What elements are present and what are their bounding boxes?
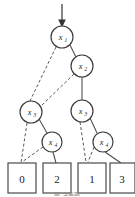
node-x3-left[interactable]: x 3 (20, 101, 42, 123)
node-x3-right-var: x (78, 107, 83, 116)
node-x4-right-subscript: 4 (106, 142, 109, 148)
root-entry-arrow (58, 4, 66, 28)
edge-x3left-to-terminal0-low (21, 123, 27, 163)
edge-x1-to-x3left-low (30, 47, 56, 101)
terminal-node-3[interactable]: 3 (110, 163, 135, 193)
node-x3-left-var: x (27, 108, 32, 117)
terminal-node-2[interactable]: 2 (43, 163, 71, 193)
node-x1[interactable]: x 1 (51, 26, 73, 48)
edge-x3right-to-terminal1-low (80, 122, 86, 162)
terminal-node-1[interactable]: 1 (78, 163, 106, 193)
node-x3-left-subscript: 3 (33, 112, 37, 118)
node-x4-left-var: x (48, 138, 53, 147)
node-x4-left-subscript: 4 (55, 142, 58, 148)
terminal-node-0[interactable]: 0 (8, 163, 36, 193)
node-x4-right[interactable]: x 4 (93, 132, 113, 152)
edge-x4left-to-terminal2-high (53, 152, 56, 163)
node-x4-left[interactable]: x 4 (42, 132, 62, 152)
node-x1-var: x (58, 33, 63, 42)
terminal-1-value: 1 (89, 173, 95, 185)
node-x1-subscript: 1 (65, 37, 68, 43)
node-x2-var: x (78, 62, 83, 71)
terminal-2-value: 2 (54, 173, 60, 185)
edge-x4left-to-terminal0-low (22, 147, 43, 162)
node-x4-right-var: x (99, 138, 104, 147)
edge-x4right-to-terminal3-high (105, 152, 121, 163)
edge-x3right-to-x4right-high (90, 118, 97, 133)
bdd-diagram-canvas: x 1 x 2 x 3 x 3 x 4 x 4 (0, 0, 135, 196)
node-x3-right-subscript: 3 (84, 111, 88, 117)
node-x3-right[interactable]: x 3 (71, 100, 93, 122)
bdd-svg-surface: x 1 x 2 x 3 x 3 x 4 x 4 (0, 0, 135, 196)
node-x2-subscript: 2 (85, 66, 88, 72)
edge-x1-to-x2-high (70, 45, 76, 57)
node-x2[interactable]: x 2 (71, 55, 93, 77)
terminal-0-value: 0 (19, 173, 25, 185)
edge-x4right-to-terminal1-low (88, 147, 94, 162)
edge-x2-to-x3left-low (41, 74, 74, 106)
figure-caption: 图 决策图 (54, 191, 80, 197)
edge-x3left-to-x4left-high (39, 119, 47, 133)
terminal-3-value: 3 (119, 173, 125, 185)
